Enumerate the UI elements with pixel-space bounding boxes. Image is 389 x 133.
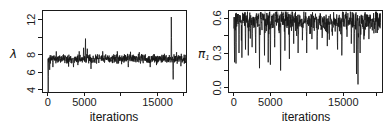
- y-tick-label: 8: [25, 52, 37, 58]
- y-tick-label: 4: [25, 87, 37, 93]
- y-tick-label: 6: [25, 69, 37, 75]
- y-tick-label: 0.6: [211, 10, 223, 25]
- pi-trace: [234, 12, 381, 85]
- x-axis-label-left: iterations: [90, 110, 139, 124]
- plot-frame: [42, 10, 186, 92]
- trace-plot-lambda: 468120500015000: [25, 10, 186, 108]
- x-tick-label: 0: [231, 96, 237, 108]
- y-tick-label: 0.0: [211, 80, 223, 95]
- y-tick-label: 12: [25, 14, 37, 26]
- x-axis-label-right: iterations: [282, 110, 331, 124]
- lambda-trace: [48, 17, 186, 94]
- trace-plots-canvas: 468120500015000 λ iterations 0.00.30.605…: [0, 0, 389, 133]
- x-tick-label: 15000: [142, 96, 173, 108]
- y-axis-label-pi-subscript: 1: [205, 54, 209, 62]
- trace-plot-pi: 0.00.30.60500015000: [211, 10, 382, 108]
- y-axis-label-lambda: λ: [9, 47, 17, 61]
- mcmc-trace-figure: 468120500015000 λ iterations 0.00.30.605…: [0, 0, 389, 133]
- x-tick-label: 5000: [258, 96, 282, 108]
- x-tick-label: 5000: [72, 96, 96, 108]
- x-tick-label: 15000: [328, 96, 359, 108]
- x-tick-label: 0: [45, 96, 51, 108]
- y-axis-label-pi: π1: [198, 47, 210, 62]
- y-tick-label: 0.3: [211, 45, 223, 60]
